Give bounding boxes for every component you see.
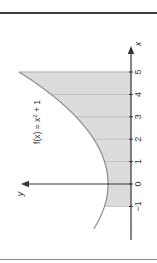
function-label-post: + 1 (32, 100, 42, 115)
x-tick-label: 5 (133, 69, 143, 74)
x-tick-label: 0 (133, 181, 143, 186)
y-axis-arrow-icon (21, 181, 29, 187)
x-tick-label: −1 (133, 201, 143, 211)
x-tick-label: 1 (133, 159, 143, 164)
function-label: f(x) = x2 + 1 (32, 100, 42, 144)
function-plot: −1012345 x y f(x) = x2 + 1 (0, 0, 157, 263)
function-label-pre: f(x) = x (32, 117, 42, 144)
y-axis-label: y (15, 191, 25, 197)
x-axis-label: x (133, 41, 143, 47)
x-tick-label: 2 (133, 137, 143, 142)
x-tick-label: 3 (133, 114, 143, 119)
x-tick-label: 4 (133, 92, 143, 97)
